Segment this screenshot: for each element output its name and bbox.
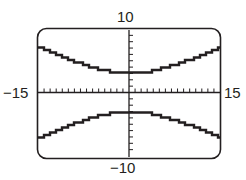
axes — [38, 30, 220, 157]
y-min-label: −10 — [110, 160, 135, 175]
calculator-graph — [0, 0, 246, 180]
x-min-label: −15 — [3, 85, 28, 100]
x-max-label: 15 — [224, 85, 241, 100]
y-max-label: 10 — [117, 9, 134, 24]
